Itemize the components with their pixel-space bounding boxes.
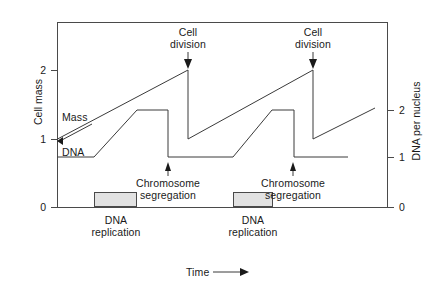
y2-axis-title: DNA per nucleus [410, 51, 422, 191]
chromosome-segregation-arrowhead-2 [290, 162, 296, 171]
y-tick-label-0: 0 [32, 201, 46, 213]
series-line-mass [58, 70, 376, 139]
x-axis-title: Time [186, 266, 209, 278]
cell-cycle-chart: Cell mass DNA per nucleus Time 2 1 0 2 1… [0, 0, 436, 289]
chromosome-segregation-label-1-line1: Chromosome [118, 177, 218, 189]
dna-replication-label-2-line2: replication [217, 226, 289, 238]
time-arrowhead [240, 268, 249, 276]
chromosome-segregation-arrowhead-1 [165, 162, 171, 171]
chromosome-segregation-label-1-line2: segregation [118, 189, 218, 201]
cell-division-label-1-line1: Cell [158, 26, 218, 38]
dna-replication-label-1-line1: DNA [80, 214, 152, 226]
dna-replication-label-1-line2: replication [80, 226, 152, 238]
y-tick-label-2: 2 [32, 64, 46, 76]
y-tick-label-1: 1 [32, 133, 46, 145]
mass-leader-line [60, 124, 92, 141]
series-label-dna: DNA [62, 146, 84, 158]
y2-tick-label-0: 0 [399, 201, 413, 213]
series-label-mass: Mass [62, 111, 88, 123]
dna-replication-label-2-line1: DNA [217, 214, 289, 226]
chromosome-segregation-label-2-line2: segregation [243, 189, 343, 201]
cell-division-arrowhead-2 [309, 59, 317, 69]
cell-division-label-2-line2: division [283, 38, 343, 50]
series-line-dna [58, 110, 349, 157]
y2-tick-label-2: 2 [399, 104, 413, 116]
chart-canvas [0, 0, 436, 289]
cell-division-label-2-line1: Cell [283, 26, 343, 38]
y2-tick-label-1: 1 [399, 151, 413, 163]
cell-division-arrowhead-1 [184, 59, 192, 69]
cell-division-label-1-line2: division [158, 38, 218, 50]
chromosome-segregation-label-2-line1: Chromosome [243, 177, 343, 189]
